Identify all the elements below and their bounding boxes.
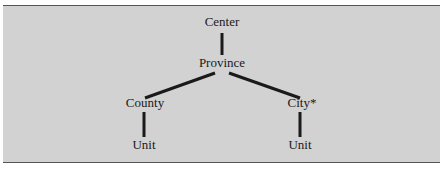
node-unit-county: Unit xyxy=(132,137,155,153)
node-unit-city: Unit xyxy=(288,137,311,153)
node-city: City* xyxy=(288,95,317,111)
node-province: Province xyxy=(199,55,245,71)
node-center: Center xyxy=(205,14,240,30)
node-county: County xyxy=(126,95,164,111)
